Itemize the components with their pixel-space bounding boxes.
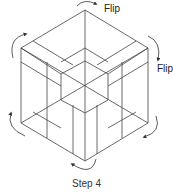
- rotate-arrow-top-right: [148, 36, 159, 60]
- frame-bars: [21, 41, 148, 154]
- rotate-arrow-top: [77, 1, 96, 6]
- inner-hexagon: [61, 61, 108, 113]
- isometric-cube-diagram: [0, 0, 173, 195]
- rotate-arrow-bottom-right: [144, 116, 158, 137]
- cube-outline: [21, 10, 148, 161]
- step-caption: Step 4: [0, 178, 173, 189]
- flip-label-right: Flip: [157, 63, 173, 74]
- flip-label-top: Flip: [104, 3, 120, 14]
